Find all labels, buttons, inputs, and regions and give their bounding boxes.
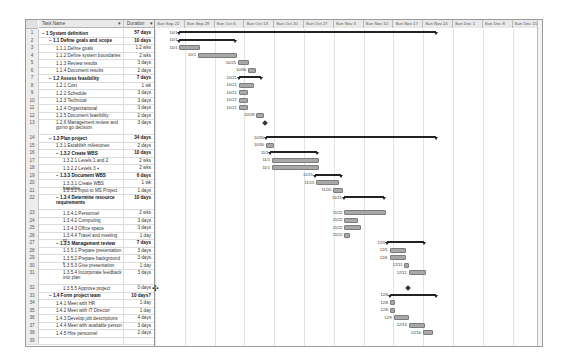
row-number[interactable]: 9 (26, 89, 39, 97)
task-bar[interactable] (390, 255, 407, 260)
task-bar[interactable] (239, 83, 254, 88)
dropdown-arrow-icon[interactable]: ▾ (150, 20, 153, 28)
row-number[interactable]: 20 (26, 179, 39, 187)
task-bar[interactable] (409, 270, 427, 275)
row-number[interactable]: 35 (26, 307, 39, 315)
task-bar[interactable] (394, 315, 409, 320)
summary-bar[interactable] (315, 174, 342, 176)
task-name-cell[interactable]: − 1.3.4 Determine resource requirements (39, 195, 122, 205)
task-bar[interactable] (248, 68, 256, 73)
row-number[interactable]: 14 (26, 134, 39, 142)
summary-bar[interactable] (344, 196, 385, 198)
task-name-cell[interactable]: 1.3.5.5 Approve project (39, 286, 122, 291)
row-number[interactable]: 6 (26, 67, 39, 75)
row-number[interactable]: 15 (26, 142, 39, 150)
row-number[interactable]: 17 (26, 157, 39, 165)
row-number[interactable]: 29 (26, 254, 39, 262)
summary-bar[interactable] (266, 136, 436, 138)
row-number[interactable]: 26 (26, 232, 39, 240)
duration-cell[interactable]: 2 days (123, 329, 153, 337)
duration-cell[interactable]: 3 days (123, 247, 153, 255)
task-bar[interactable] (333, 188, 343, 193)
row-number[interactable]: 10 (26, 97, 39, 105)
duration-cell[interactable]: 1 days (123, 187, 153, 195)
row-number[interactable]: 36 (26, 314, 39, 322)
summary-bar[interactable] (239, 76, 261, 78)
select-all-corner[interactable] (26, 20, 38, 29)
duration-cell[interactable]: 3 days (123, 97, 153, 105)
row-number[interactable]: 38 (26, 329, 39, 337)
duration-cell[interactable]: 2 wks (123, 209, 153, 217)
milestone-diamond-icon[interactable] (262, 120, 268, 126)
summary-bar[interactable] (387, 241, 424, 243)
task-bar[interactable] (344, 210, 386, 215)
duration-cell[interactable]: 4 days (123, 314, 153, 322)
row-number[interactable]: 34 (26, 299, 39, 307)
row-number[interactable]: 1 (26, 29, 39, 37)
duration-cell[interactable]: 1.2 wks (123, 44, 153, 52)
task-bar[interactable] (404, 263, 409, 268)
row-number[interactable]: 12 (26, 112, 39, 120)
duration-cell[interactable]: 3 days (123, 322, 153, 330)
duration-cell[interactable]: 3 days (123, 224, 153, 232)
row-number[interactable]: 28 (26, 247, 39, 255)
row-number[interactable]: 39 (26, 337, 39, 345)
task-name-cell[interactable]: − 1 System definition (39, 31, 122, 36)
task-name-cell[interactable]: 1.1.2 Define system boundaries (39, 53, 122, 58)
row-number[interactable]: 16 (26, 149, 39, 157)
task-bar[interactable] (344, 225, 361, 230)
duration-cell[interactable]: 3 days (123, 217, 153, 225)
row-number[interactable]: 24 (26, 217, 39, 225)
duration-cell[interactable]: 10 days (123, 194, 153, 209)
duration-cell[interactable]: 1 wk (123, 82, 153, 90)
row-number[interactable]: 25 (26, 224, 39, 232)
task-bar[interactable] (198, 53, 237, 58)
table-row[interactable]: 22− 1.3.4 Determine resource requirement… (26, 194, 154, 210)
task-bar[interactable] (179, 45, 200, 50)
task-name-cell[interactable]: 1.4.4 Meet with available person (39, 323, 122, 328)
duration-cell[interactable]: 7 days (123, 74, 153, 82)
duration-cell[interactable]: 6 days (123, 172, 153, 180)
duration-cell[interactable]: 2 days (123, 112, 153, 120)
task-name-cell[interactable]: 1.1.1 Define goals (39, 46, 122, 51)
row-number[interactable]: 21 (26, 187, 39, 195)
task-bar[interactable] (272, 158, 319, 163)
task-name-cell[interactable]: 1.3.2.1 Levels 1 and 2 (39, 158, 122, 163)
duration-cell[interactable]: 0 days (123, 284, 153, 292)
duration-cell[interactable] (123, 337, 153, 345)
table-row[interactable]: 311.3.5.4 Incorporate feedback into plan… (26, 269, 154, 285)
task-name-cell[interactable]: 1.2.1 Cost (39, 83, 122, 88)
row-number[interactable]: 11 (26, 104, 39, 112)
task-name-cell[interactable]: − 1.4 Form project team (39, 293, 122, 298)
task-name-cell[interactable]: 1.2.2 Schedule (39, 91, 122, 96)
task-bar[interactable] (344, 233, 350, 238)
summary-bar[interactable] (390, 294, 436, 296)
duration-cell[interactable]: 34 days (123, 134, 153, 142)
duration-cell[interactable]: 1 day (123, 232, 153, 240)
duration-cell[interactable]: 10 days (123, 37, 153, 45)
row-number[interactable]: 27 (26, 239, 39, 247)
duration-cell[interactable]: 2 wks (123, 157, 153, 165)
task-name-cell[interactable]: 1.2.4 Organizational (39, 106, 122, 111)
task-bar[interactable] (390, 248, 407, 253)
row-number[interactable]: 13 (26, 119, 39, 134)
duration-cell[interactable]: 3 days (123, 59, 153, 67)
task-bar[interactable] (390, 300, 395, 305)
task-name-cell[interactable]: 1.3.4.1 Personnel (39, 211, 122, 216)
task-bar[interactable] (238, 60, 250, 65)
vertical-scrollbar[interactable] (537, 20, 542, 346)
task-bar[interactable] (272, 165, 319, 170)
duration-cell[interactable]: 10 days (123, 149, 153, 157)
row-number[interactable]: 8 (26, 82, 39, 90)
duration-cell[interactable]: 1 day (123, 299, 153, 307)
task-name-cell[interactable]: 1.3.2.2 Levels 3 + (39, 166, 122, 171)
row-number[interactable]: 30 (26, 262, 39, 270)
table-row[interactable]: 131.2.6 Management review and go/no go d… (26, 119, 154, 135)
duration-cell[interactable]: 1 day (123, 307, 153, 315)
duration-cell[interactable]: 2 wks (123, 164, 153, 172)
duration-cell[interactable]: 1 wk (123, 179, 153, 187)
task-name-cell[interactable]: 1.3.5.4 Incorporate feedback into plan (39, 270, 122, 280)
task-name-cell[interactable]: 1.4.5 Hire personnel (39, 331, 122, 336)
duration-cell[interactable]: 3 days (123, 269, 153, 284)
duration-cell[interactable]: 1 day (123, 262, 153, 270)
